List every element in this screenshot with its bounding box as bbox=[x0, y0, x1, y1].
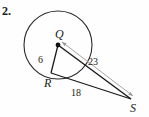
point-label-q: Q bbox=[55, 28, 64, 40]
problem-number: 2. bbox=[2, 5, 11, 17]
point-label-s: S bbox=[130, 102, 136, 114]
length-label-tangent: 18 bbox=[71, 88, 81, 98]
segment-qr bbox=[51, 45, 58, 73]
center-point-dot bbox=[56, 43, 61, 48]
point-label-r: R bbox=[44, 77, 51, 89]
geometry-figure: 2. Q R S 6 23 18 bbox=[0, 0, 149, 117]
figure-canvas bbox=[0, 0, 149, 117]
segment-rs bbox=[51, 73, 131, 99]
length-label-hypotenuse: 23 bbox=[88, 57, 98, 67]
segment-qs bbox=[58, 45, 131, 99]
length-label-radius: 6 bbox=[38, 55, 43, 65]
